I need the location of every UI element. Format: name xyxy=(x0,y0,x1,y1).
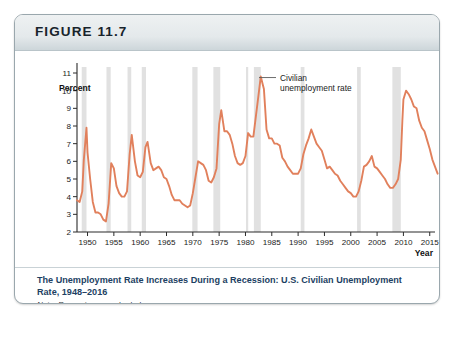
x-tick-label: 1990 xyxy=(289,238,308,247)
x-tick-label: 1960 xyxy=(131,238,150,247)
x-tick-label: 2015 xyxy=(421,238,440,247)
x-tick-label: 2010 xyxy=(394,238,413,247)
chart-plot-area: 234567891011 195019551960196519701975198… xyxy=(15,51,440,267)
x-tick-label: 1970 xyxy=(184,238,203,247)
y-tick-label: 4 xyxy=(66,193,71,202)
x-tick-label: 1980 xyxy=(236,238,255,247)
y-tick-label: 3 xyxy=(66,210,71,219)
caption-note: Note: Recessions are shaded. xyxy=(37,300,419,304)
x-tick-label: 1975 xyxy=(210,238,229,247)
x-axis-title: Year xyxy=(415,248,434,258)
x-axis-group xyxy=(77,232,435,236)
y-tick-label: 8 xyxy=(66,122,71,131)
x-tick-label: 1995 xyxy=(315,238,334,247)
unemployment-line-chart: 234567891011 195019551960196519701975198… xyxy=(15,51,440,267)
caption-title: The Unemployment Rate Increases During a… xyxy=(37,274,419,298)
figure-caption: The Unemployment Rate Increases During a… xyxy=(15,267,440,304)
y-tick-label: 5 xyxy=(66,175,71,184)
x-tick-label: 1985 xyxy=(263,238,282,247)
y-axis-title: Percent xyxy=(59,83,91,93)
x-tick-label: 1965 xyxy=(157,238,176,247)
y-tick-label: 9 xyxy=(66,104,71,113)
x-tick-labels: 1950195519601965197019751980198519901995… xyxy=(79,238,440,247)
x-tick-label: 2000 xyxy=(342,238,361,247)
y-tick-label: 6 xyxy=(66,157,71,166)
callout-text-line2: unemployment rate xyxy=(280,83,352,93)
y-tick-label: 11 xyxy=(63,69,72,78)
callout-annotation: Civilian unemployment rate xyxy=(259,73,352,93)
x-tick-label: 2005 xyxy=(368,238,387,247)
recession-band xyxy=(357,67,361,232)
x-tick-label: 1950 xyxy=(79,238,98,247)
figure-number-label: FIGURE 11.7 xyxy=(35,24,127,39)
callout-text-line1: Civilian xyxy=(280,73,307,83)
y-tick-labels: 234567891011 xyxy=(62,69,72,237)
figure-card: FIGURE 11.7 234567891011 195019551960196… xyxy=(14,14,440,304)
figure-header-band: FIGURE 11.7 xyxy=(15,15,439,51)
recession-band xyxy=(392,67,400,232)
recession-band xyxy=(192,67,197,232)
y-tick-label: 7 xyxy=(66,140,71,149)
x-tick-label: 1955 xyxy=(105,238,124,247)
y-tick-label: 2 xyxy=(66,228,71,237)
